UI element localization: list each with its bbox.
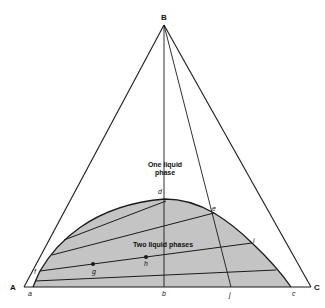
ternary-diagram: B A C a b c d e f g h i j One liquid pha… bbox=[0, 0, 325, 308]
point-h-dot bbox=[144, 255, 148, 259]
one-liquid-phase-label: One liquid phase bbox=[144, 161, 186, 176]
diagram-canvas bbox=[0, 0, 325, 308]
point-label-h: h bbox=[144, 260, 148, 267]
point-label-d: d bbox=[158, 188, 162, 195]
point-label-b: b bbox=[162, 290, 166, 297]
one-liquid-phase-line1: One liquid bbox=[144, 161, 186, 168]
point-label-i: i bbox=[253, 237, 255, 244]
point-label-g: g bbox=[92, 268, 96, 275]
vertex-label-C: C bbox=[314, 284, 320, 292]
vertex-label-A: A bbox=[10, 284, 16, 292]
point-label-e: e bbox=[212, 205, 216, 212]
point-label-a: a bbox=[28, 290, 32, 297]
point-label-j: j bbox=[229, 291, 231, 298]
two-liquid-phases-label: Two liquid phases bbox=[133, 241, 193, 248]
one-liquid-phase-line2: phase bbox=[144, 169, 186, 176]
vertex-label-B: B bbox=[161, 14, 167, 22]
point-g-dot bbox=[91, 262, 95, 266]
point-label-c: c bbox=[292, 290, 296, 297]
point-label-f: f bbox=[34, 268, 36, 275]
